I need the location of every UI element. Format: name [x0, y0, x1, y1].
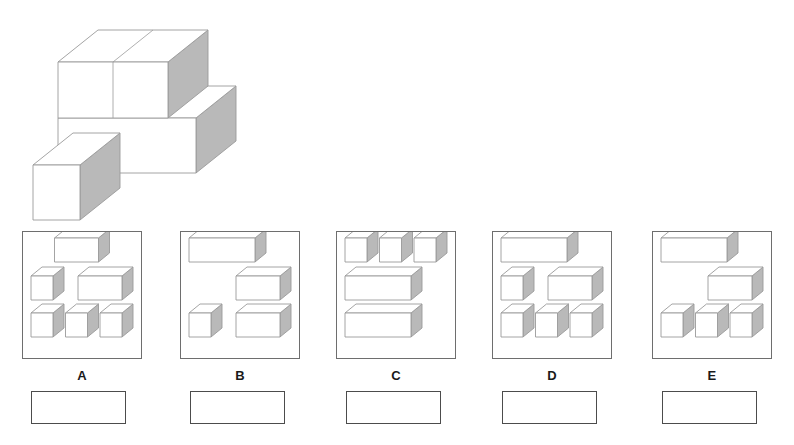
option-block-r1-b1 [661, 232, 738, 262]
option-block-r3-b1 [189, 304, 222, 337]
option-panel-e[interactable] [652, 231, 772, 359]
answer-input-e[interactable] [662, 391, 757, 424]
block-front-face [55, 238, 99, 262]
block-front-face [501, 238, 567, 262]
option-blocks-d [493, 232, 611, 358]
option-label-e: E [652, 368, 772, 383]
answer-input-b[interactable] [190, 391, 285, 424]
answer-input-a[interactable] [31, 391, 126, 424]
option-panel-c[interactable] [336, 231, 456, 359]
option-panel-a[interactable] [22, 231, 142, 359]
option-block-r3-b2 [66, 304, 99, 337]
block-front-face [380, 238, 402, 262]
block-front-face [33, 165, 80, 220]
block-front-face [189, 313, 211, 337]
option-blocks-e [653, 232, 771, 358]
block-front-face [66, 313, 88, 337]
option-block-r2-b1 [31, 267, 64, 300]
block-top-face [345, 304, 422, 313]
option-block-r3-b3 [100, 304, 133, 337]
block-front-face [708, 276, 752, 300]
block-front-face [31, 313, 53, 337]
option-block-r2-b2 [548, 267, 603, 300]
option-blocks-a [23, 232, 141, 358]
block-front-face [501, 313, 523, 337]
option-block-r1-b3 [414, 232, 447, 262]
option-block-r1-b1 [55, 232, 110, 262]
block-front-face [661, 313, 683, 337]
block-front-face [345, 276, 411, 300]
option-block-r3-b3 [730, 304, 763, 337]
option-panel-d[interactable] [492, 231, 612, 359]
option-block-r3-b1 [501, 304, 534, 337]
block-front-face [696, 313, 718, 337]
answer-input-d[interactable] [502, 391, 597, 424]
block-top-face [661, 232, 738, 238]
block-top-face [345, 267, 422, 276]
option-panel-b[interactable] [180, 231, 300, 359]
block-front-face [730, 313, 752, 337]
block-front-face [345, 238, 367, 262]
block-front-face [189, 238, 255, 262]
option-block-r1-b2 [380, 232, 413, 262]
block-front-face [548, 276, 592, 300]
block-front-face [536, 313, 558, 337]
option-block-r3-b2 [696, 304, 729, 337]
option-block-r3-b1 [31, 304, 64, 337]
answer-input-c[interactable] [346, 391, 441, 424]
option-block-r3-b1 [661, 304, 694, 337]
option-block-r3-b3 [570, 304, 603, 337]
block-front-face [78, 276, 122, 300]
option-label-d: D [492, 368, 612, 383]
block-front-face [345, 313, 411, 337]
block-front-face [661, 238, 727, 262]
option-block-r2-b2 [78, 267, 133, 300]
option-block-r2-b1 [236, 267, 291, 300]
block-front-face [100, 313, 122, 337]
block-front-face [414, 238, 436, 262]
option-block-r2-b1 [501, 267, 534, 300]
option-block-r3-b2 [236, 304, 291, 337]
option-label-b: B [180, 368, 300, 383]
option-label-c: C [336, 368, 456, 383]
block-top-face [189, 232, 266, 238]
option-block-r1-b1 [345, 232, 378, 262]
option-block-r3-b2 [536, 304, 569, 337]
option-block-r3-b1 [345, 304, 422, 337]
option-block-r2-b1 [345, 267, 422, 300]
front-corner-cube [33, 133, 120, 220]
option-block-r1-b1 [189, 232, 266, 262]
block-front-face [501, 276, 523, 300]
block-top-face [501, 232, 578, 238]
block-front-face [236, 313, 280, 337]
option-blocks-b [181, 232, 299, 358]
option-label-a: A [22, 368, 142, 383]
option-block-r2-b1 [708, 267, 763, 300]
stimulus-group [33, 30, 236, 220]
option-block-r1-b1 [501, 232, 578, 262]
block-front-face [236, 276, 280, 300]
block-front-face [31, 276, 53, 300]
block-front-face [570, 313, 592, 337]
option-blocks-c [337, 232, 455, 358]
